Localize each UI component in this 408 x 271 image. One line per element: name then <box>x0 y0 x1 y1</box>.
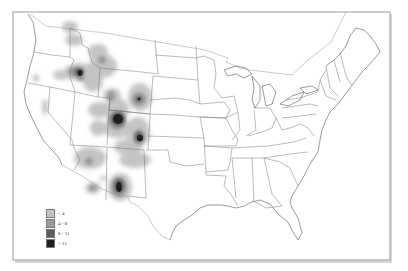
legend-item: 8 - 11 <box>46 228 69 238</box>
legend-label: 8 - 11 <box>58 230 69 237</box>
legend-item: > 11 <box>46 239 69 249</box>
legend-swatch <box>46 229 55 238</box>
legend-swatch <box>46 219 55 228</box>
legend-label: 4 - 8 <box>58 220 67 227</box>
legend-label: > 11 <box>58 240 67 247</box>
legend-swatch <box>46 239 55 248</box>
legend-label: < 4 <box>58 210 65 217</box>
legend-swatch <box>46 209 55 218</box>
legend: < 4 4 - 8 8 - 11 > 11 <box>46 208 69 249</box>
legend-item: < 4 <box>46 208 69 218</box>
legend-item: 4 - 8 <box>46 218 69 228</box>
